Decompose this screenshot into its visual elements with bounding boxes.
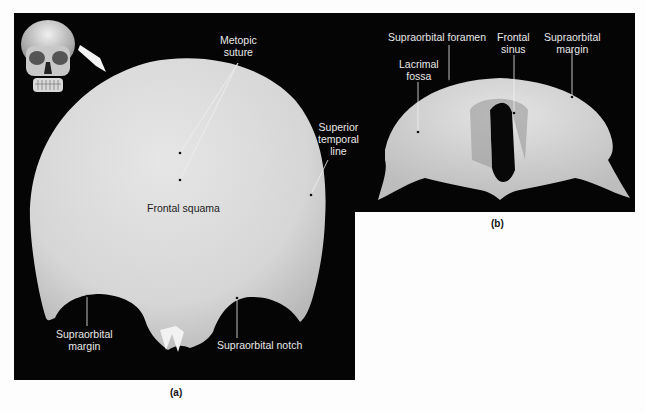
label-frontal-squama: Frontal squama	[147, 202, 220, 214]
label-line: margin	[544, 43, 601, 55]
label-line: temporal	[318, 133, 359, 145]
label-lacrimal-fossa: Lacrimal fossa	[399, 58, 439, 82]
label-metopic-suture: Metopic suture	[220, 34, 257, 58]
label-line: sinus	[497, 43, 530, 55]
label-line: Lacrimal	[399, 58, 439, 70]
label-supraorbital-notch: Supraorbital notch	[217, 339, 302, 351]
label-superior-temporal-line: Superior temporal line	[318, 121, 359, 157]
label-frontal-sinus: Frontal sinus	[497, 31, 530, 55]
label-line: Supraorbital	[56, 328, 113, 340]
frontal-bone-inferior	[378, 78, 630, 200]
label-line: Metopic	[220, 34, 257, 46]
label-line: fossa	[399, 70, 439, 82]
label-line: margin	[56, 340, 113, 352]
label-line: Superior	[318, 121, 359, 133]
label-supraorbital-margin-a: Supraorbital margin	[56, 328, 113, 352]
caption-a: (a)	[170, 387, 182, 398]
label-supraorbital-margin-b: Supraorbital margin	[544, 31, 601, 55]
label-line: Supraorbital	[544, 31, 601, 43]
label-line: line	[318, 145, 359, 157]
label-line: Frontal	[497, 31, 530, 43]
label-supraorbital-foramen: Supraorbital foramen	[388, 31, 486, 43]
caption-b: (b)	[491, 218, 504, 229]
label-line: suture	[220, 46, 257, 58]
skull-inset-icon	[21, 20, 106, 92]
